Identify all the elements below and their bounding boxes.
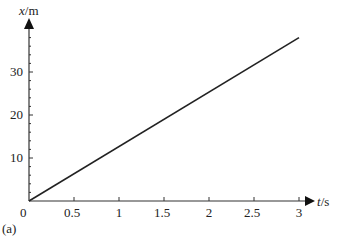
x-tick-label: 2.5 <box>244 206 260 219</box>
x-tick-label: 2 <box>206 206 213 219</box>
x-tick-label: 0 <box>20 206 27 219</box>
y-tick-label: 20 <box>10 108 23 121</box>
y-tick-label: 30 <box>10 65 23 78</box>
x-tick-label: 1 <box>116 206 123 219</box>
y-axis-arrow-icon <box>24 18 34 29</box>
x-axis-arrow-icon <box>305 196 315 206</box>
x-tick-label: 1.5 <box>154 206 170 219</box>
x-tick-label: 3 <box>296 206 303 219</box>
x-tick-label: 0.5 <box>64 206 80 219</box>
y-axis-label: x/m <box>19 4 39 17</box>
y-tick-label: 10 <box>10 151 23 164</box>
panel-label: (a) <box>2 222 16 235</box>
data-line <box>29 38 299 201</box>
chart-canvas <box>0 0 343 240</box>
x-axis-label: t/s <box>317 195 329 208</box>
